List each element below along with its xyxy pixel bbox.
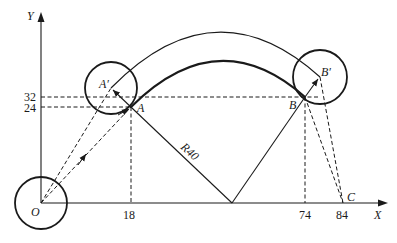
o-to-a-prime-line [41, 88, 111, 203]
inner-arc [131, 61, 305, 107]
x-tick-84: 84 [336, 208, 348, 222]
b-to-b-prime-arrow [305, 79, 318, 97]
arc-paths [111, 32, 320, 107]
point-a-prime-label: A′ [98, 77, 109, 91]
b-to-c-line [305, 97, 343, 203]
radius-label: R40 [177, 139, 201, 163]
x-tick-18: 18 [123, 208, 135, 222]
radius-lines [113, 79, 318, 203]
origin-label: O [31, 205, 40, 219]
point-a-label: A [136, 101, 145, 115]
x-axis-label: X [373, 208, 382, 222]
radius-line-to-b [232, 97, 305, 203]
point-c-label: C [347, 190, 356, 204]
x-axis-arrow-icon [378, 200, 388, 207]
point-b-label: B [289, 98, 297, 112]
x-tick-74: 74 [299, 208, 311, 222]
y-axis-label: Y [27, 9, 35, 23]
o-to-a-line [41, 107, 131, 203]
point-b-prime-label: B′ [321, 65, 331, 79]
y-axis-arrow-icon [38, 12, 45, 22]
coordinate-axes [38, 12, 389, 207]
direction-arrow-icon [78, 154, 86, 165]
motion-path-diagram: Y X O 32 24 18 74 84 A′ A B′ B C R40 [0, 0, 397, 243]
y-tick-24: 24 [24, 101, 36, 115]
